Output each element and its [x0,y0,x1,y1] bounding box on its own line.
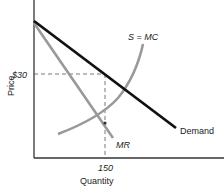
mc-label: S = MC [128,32,159,42]
mr-label: MR [116,140,130,150]
mr-mc-intersection [103,121,106,124]
price-tick: $30 [11,70,27,80]
x-axis-label: Quantity [80,176,114,186]
demand-label: Demand [180,126,214,136]
qty-tick: 150 [98,163,113,173]
monopoly-chart: Price Quantity $30 150 Demand MR S = MC [0,0,224,186]
mr-line [34,23,113,138]
